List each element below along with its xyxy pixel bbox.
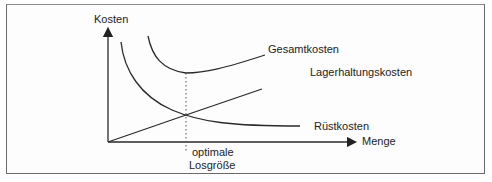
x-axis-label: Menge: [362, 135, 396, 147]
optimum-label-line1: optimale: [192, 146, 234, 158]
holding-cost-label: Lagerhaltungskosten: [310, 66, 412, 78]
optimum-label-line2: Losgröße: [189, 159, 235, 171]
cost-diagram: [0, 0, 492, 182]
y-axis-label: Kosten: [94, 13, 128, 25]
total-cost-curve: [148, 36, 265, 73]
setup-cost-label: Rüstkosten: [314, 120, 369, 132]
total-cost-label: Gesamtkosten: [268, 43, 339, 55]
